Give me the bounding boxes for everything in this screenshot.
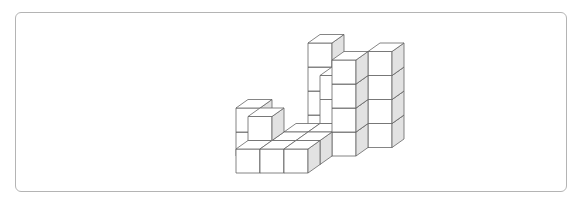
cube-front-face [248, 117, 272, 141]
cube-front-face [368, 100, 392, 124]
cube-front-face [332, 60, 356, 84]
cube-front-face [284, 149, 308, 173]
unit-cube [248, 108, 284, 141]
cube-front-face [260, 149, 284, 173]
cube-front-face [236, 149, 260, 173]
cube-front-face [332, 108, 356, 132]
unit-cube [368, 43, 404, 76]
unit-cube [332, 52, 368, 85]
cube-front-face [308, 43, 332, 67]
cube-front-face [332, 84, 356, 108]
cube-front-face [368, 52, 392, 76]
cube-front-face [332, 132, 356, 156]
cube-front-face [368, 124, 392, 148]
unit-cube [284, 141, 320, 174]
cube-structure-diagram [0, 0, 581, 207]
cube-front-face [368, 76, 392, 100]
